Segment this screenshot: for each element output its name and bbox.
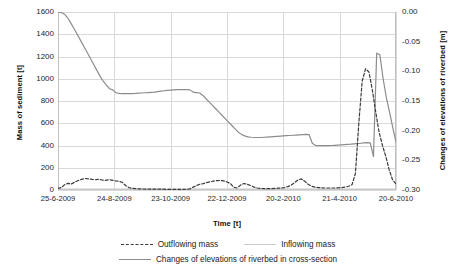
x-axis-tick-label: 25-6-2009 <box>29 194 87 203</box>
y-axis-right-tick-label: -0.20 <box>402 126 442 135</box>
y-axis-right-tick-label: -0.15 <box>402 96 442 105</box>
chart-container: Mass of sediment [t] Changes of elevatio… <box>0 0 456 278</box>
y-axis-right-tick-label: -0.10 <box>402 66 442 75</box>
x-axis-tick-label: 20-2-2010 <box>254 194 312 203</box>
legend-row-1: Outflowing mass Inflowing mass <box>0 237 456 252</box>
series-layer <box>58 12 396 190</box>
legend-row-2: Changes of elevations of riverbed in cro… <box>0 252 456 267</box>
gridline-vertical <box>396 12 397 190</box>
plot-area <box>58 12 396 190</box>
y-axis-left-tick-label: 1200 <box>18 52 54 61</box>
y-axis-left-tick-label: 400 <box>18 141 54 150</box>
legend-label-outflowing-mass: Outflowing mass <box>158 240 219 249</box>
legend-item-inflowing-mass: Inflowing mass <box>244 240 335 249</box>
y-axis-left-tick-label: 1400 <box>18 29 54 38</box>
chart-legend: Outflowing mass Inflowing mass Changes o… <box>0 237 456 267</box>
y-axis-left-tick-label: 0 <box>18 185 54 194</box>
x-axis-title: Time [t] <box>58 219 396 228</box>
legend-label-riverbed-elevation: Changes of elevations of riverbed in cro… <box>156 255 337 264</box>
y-axis-right-tick-label: -0.30 <box>402 185 442 194</box>
series-line-changes-of-elevations-of-riverbed-in-cross-section <box>58 12 396 156</box>
y-axis-left-tick-label: 1000 <box>18 74 54 83</box>
legend-label-inflowing-mass: Inflowing mass <box>281 240 335 249</box>
x-axis-tick-label: 21-4-2010 <box>311 194 369 203</box>
y-axis-right-tick-label: 0.00 <box>402 7 442 16</box>
y-axis-left-tick-label: 1600 <box>18 7 54 16</box>
x-axis-tick-label: 24-8-2009 <box>85 194 143 203</box>
y-axis-left-tick-label: 600 <box>18 118 54 127</box>
y-axis-left-tick-label: 800 <box>18 96 54 105</box>
gridline-horizontal <box>58 190 396 191</box>
series-line-outflowing-mass <box>58 69 396 190</box>
x-axis-tick-label: 22-12-2009 <box>198 194 256 203</box>
legend-item-outflowing-mass: Outflowing mass <box>121 240 219 249</box>
x-axis-tick-label: 20-6-2010 <box>367 194 425 203</box>
dashed-line-swatch-icon <box>121 244 153 245</box>
x-axis-tick-label: 23-10-2009 <box>142 194 200 203</box>
y-axis-right-tick-label: -0.05 <box>402 37 442 46</box>
solid-line-swatch-icon <box>119 259 151 260</box>
y-axis-left-tick-label: 200 <box>18 163 54 172</box>
light-line-swatch-icon <box>244 244 276 245</box>
y-axis-right-tick-label: -0.25 <box>402 155 442 164</box>
legend-item-riverbed-elevation: Changes of elevations of riverbed in cro… <box>119 255 337 264</box>
